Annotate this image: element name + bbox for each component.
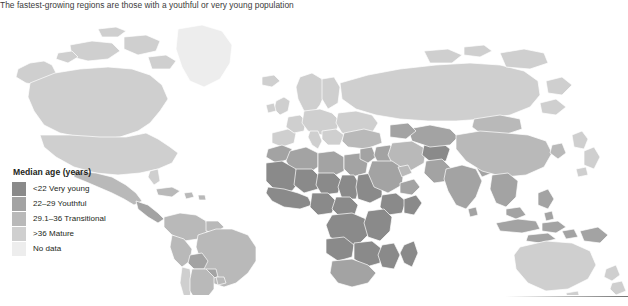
legend-item-mature: >36 Mature (12, 226, 140, 241)
legend-label-mature: >36 Mature (33, 227, 74, 241)
legend-label-very-young: <22 Very young (33, 182, 89, 196)
figure-caption: The fastest-growing regions are those wi… (0, 0, 628, 11)
legend-item-youthful: 22–29 Youthful (12, 196, 140, 211)
legend-swatch-youthful (12, 197, 26, 211)
legend-title: Median age (years) (13, 167, 140, 177)
legend-swatch-mature (12, 227, 26, 241)
legend-swatch-transitional (12, 212, 26, 226)
legend-label-transitional: 29.1–36 Transitional (33, 212, 106, 226)
legend-label-youthful: 22–29 Youthful (33, 197, 87, 211)
legend-swatch-very-young (12, 182, 26, 196)
legend-swatch-no-data (12, 242, 26, 256)
legend-item-no-data: No data (12, 241, 140, 256)
median-age-world-map-figure: The fastest-growing regions are those wi… (0, 0, 628, 306)
map-legend: Median age (years) <22 Very young 22–29 … (12, 167, 140, 256)
footer-rule (505, 296, 628, 297)
legend-item-transitional: 29.1–36 Transitional (12, 211, 140, 226)
legend-item-very-young: <22 Very young (12, 181, 140, 196)
legend-label-no-data: No data (33, 242, 61, 256)
